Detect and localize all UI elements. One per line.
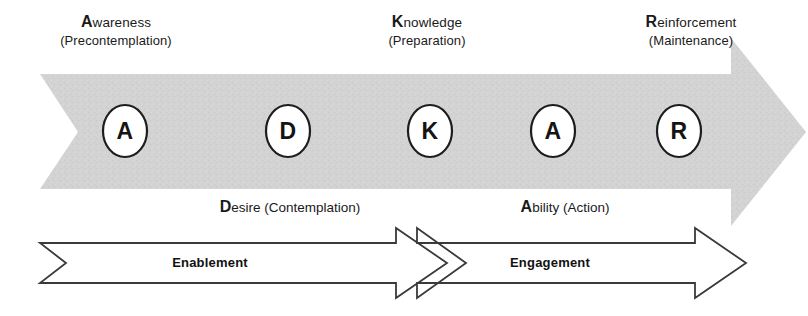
stage-label-reinforcement-rest: einforcement — [657, 15, 736, 30]
phase-label-desire-initial: D — [220, 198, 232, 215]
phase-label-ability-initial: A — [521, 198, 533, 215]
stage-label-reinforcement-initial: R — [646, 13, 658, 30]
node-letter-knowledge: K — [408, 105, 452, 157]
stage-label-knowledge-sub: (Preparation) — [332, 33, 522, 50]
stage-label-knowledge-main: Knowledge — [332, 12, 522, 33]
stage-label-reinforcement-main: Reinforcement — [596, 12, 786, 33]
engagement-arrow-label: Engagement — [430, 255, 670, 270]
node-letter-reinforcement: R — [657, 105, 701, 157]
stage-label-knowledge-initial: K — [392, 13, 404, 30]
stage-label-awareness: Awareness (Precontemplation) — [16, 12, 216, 50]
node-letter-desire: D — [266, 105, 310, 157]
adkar-diagram: Awareness (Precontemplation) Knowledge (… — [0, 0, 808, 316]
stage-label-awareness-initial: A — [81, 13, 93, 30]
phase-label-ability: Ability (Action) — [420, 198, 710, 216]
phase-label-desire-rest: esire (Contemplation) — [231, 200, 360, 215]
stage-label-reinforcement: Reinforcement (Maintenance) — [596, 12, 786, 50]
phase-label-ability-rest: bility (Action) — [532, 200, 609, 215]
stage-label-reinforcement-sub: (Maintenance) — [596, 33, 786, 50]
stage-label-awareness-main: Awareness — [16, 12, 216, 33]
stage-label-awareness-rest: wareness — [93, 15, 152, 30]
enablement-arrow-label: Enablement — [90, 255, 330, 270]
node-letter-ability: A — [531, 105, 575, 157]
node-letter-awareness: A — [103, 105, 147, 157]
stage-label-knowledge: Knowledge (Preparation) — [332, 12, 522, 50]
phase-label-desire: Desire (Contemplation) — [120, 198, 460, 216]
stage-label-awareness-sub: (Precontemplation) — [16, 33, 216, 50]
stage-label-knowledge-rest: nowledge — [404, 15, 463, 30]
